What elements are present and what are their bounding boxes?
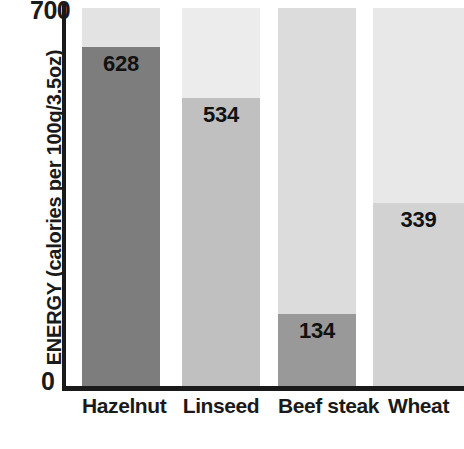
bar-fill-hazelnut[interactable]: 628 bbox=[82, 47, 160, 386]
x-axis-label-wheat: Wheat bbox=[373, 394, 464, 418]
bar-group-linseed[interactable]: 534 bbox=[182, 8, 260, 386]
bar-fill-wheat[interactable]: 339 bbox=[373, 203, 464, 386]
bar-fill-beef-steak[interactable]: 134 bbox=[278, 314, 356, 386]
bar-value-hazelnut: 628 bbox=[82, 52, 160, 75]
x-axis-category-labels: Hazelnut Linseed Beef steak Wheat bbox=[66, 394, 464, 434]
bar-group-wheat[interactable]: 339 bbox=[373, 8, 464, 386]
x-axis-label-linseed: Linseed bbox=[182, 394, 260, 418]
bar-fill-linseed[interactable]: 534 bbox=[182, 98, 260, 386]
bar-chart: ENERGY (calories per 100g/3.5oz) 700 0 6… bbox=[0, 0, 464, 449]
x-axis-label-beef-steak: Beef steak bbox=[278, 394, 356, 418]
bar-group-hazelnut[interactable]: 628 bbox=[82, 8, 160, 386]
bar-value-wheat: 339 bbox=[373, 208, 464, 231]
bar-value-linseed: 534 bbox=[182, 103, 260, 126]
x-axis-label-hazelnut: Hazelnut bbox=[82, 394, 160, 418]
plot-area: 628 534 134 339 bbox=[66, 8, 464, 386]
x-axis-line bbox=[62, 386, 464, 391]
bar-group-beef-steak[interactable]: 134 bbox=[278, 8, 356, 386]
bar-value-beef-steak: 134 bbox=[278, 319, 356, 342]
